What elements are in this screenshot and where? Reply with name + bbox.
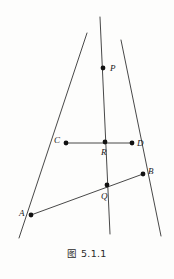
point-label-d: D <box>136 138 144 148</box>
point-label-p: P <box>109 63 116 73</box>
point-label-a: A <box>18 208 25 218</box>
line-through-P-R-Q <box>100 17 110 234</box>
point-b <box>141 172 146 177</box>
lines-group <box>19 17 161 238</box>
figure-caption: 图 5.1.1 <box>0 246 174 260</box>
point-a <box>29 213 34 218</box>
segment-A-Q-B <box>31 174 143 215</box>
point-label-b: B <box>148 166 154 176</box>
point-r <box>103 140 108 145</box>
point-label-c: C <box>54 135 61 145</box>
point-label-q: Q <box>101 191 108 201</box>
point-d <box>130 141 135 146</box>
point-p <box>101 66 106 71</box>
geometry-diagram-svg: PCRDBQA <box>0 0 174 279</box>
point-c <box>64 141 69 146</box>
point-label-r: R <box>100 147 107 157</box>
geometry-figure: PCRDBQA 图 5.1.1 <box>0 0 174 279</box>
point-q <box>105 183 110 188</box>
